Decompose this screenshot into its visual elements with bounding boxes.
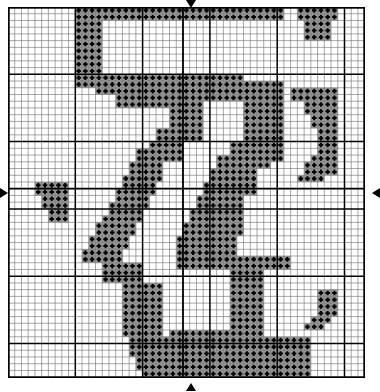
grid-svg: [8, 7, 365, 378]
pattern-chart-page: [0, 0, 380, 392]
cross-stitch-grid[interactable]: [8, 7, 365, 378]
center-marker-right-arrow-icon: [372, 188, 380, 198]
center-marker-bottom-arrow-icon: [186, 383, 196, 391]
center-marker-left-arrow-icon: [0, 188, 8, 198]
center-marker-top-arrow-icon: [186, 0, 196, 8]
